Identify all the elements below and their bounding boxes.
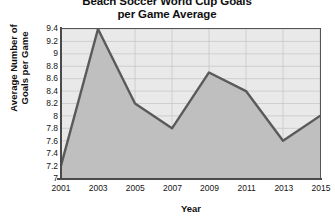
y-axis-tick-label: 7.8 (32, 124, 58, 133)
y-axis-tick-label: 7 (32, 174, 58, 183)
y-axis-tick-label: 9.2 (32, 36, 58, 45)
y-axis-tick-label: 9 (32, 49, 58, 58)
x-axis-tick-label: 2001 (41, 183, 81, 193)
chart-title: Beach Soccer World Cup Goals per Game Av… (42, 0, 292, 20)
x-axis-tick-label: 2005 (115, 183, 155, 193)
y-axis-tick-label: 8.4 (32, 86, 58, 95)
x-axis-line (57, 178, 322, 180)
x-axis-tick-label: 2011 (227, 183, 267, 193)
x-axis-title: Year (61, 203, 321, 214)
y-axis-tick-labels: 9.49.298.88.68.48.287.87.67.47.27 (32, 22, 58, 172)
plot-area (61, 28, 321, 178)
y-axis-tick-label: 7.6 (32, 136, 58, 145)
x-axis-tick-label: 2007 (152, 183, 192, 193)
y-axis-title: Average Number of Goals per Game (8, 5, 30, 131)
y-axis-tick-label: 8.2 (32, 99, 58, 108)
x-axis-tick-label: 2015 (301, 183, 335, 193)
y-axis-line (60, 27, 62, 180)
y-axis-tick-label: 7.4 (32, 149, 58, 158)
x-axis-tick-label: 2009 (190, 183, 230, 193)
y-axis-tick-label: 9.4 (32, 24, 58, 33)
y-axis-tick-label: 8 (32, 111, 58, 120)
y-axis-tick-label: 7.2 (32, 161, 58, 170)
y-axis-tick-label: 8.6 (32, 74, 58, 83)
x-axis-tick-label: 2013 (264, 183, 304, 193)
x-axis-tick-label: 2003 (78, 183, 118, 193)
area-series-svg (61, 29, 320, 178)
y-axis-tick-label: 8.8 (32, 61, 58, 70)
x-axis-tick-labels: 20012003200520072009201120132015 (61, 183, 321, 195)
